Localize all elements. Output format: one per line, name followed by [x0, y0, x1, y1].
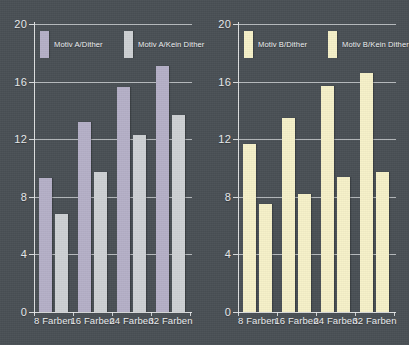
x-tick-label: 24 Farben — [109, 315, 153, 326]
x-tick-label: 32 Farben — [352, 315, 396, 326]
x-tick-label: 32 Farben — [148, 315, 192, 326]
legend-right: Motiv B/DitherMotiv B/Kein Dither — [244, 30, 404, 58]
bar — [39, 178, 52, 312]
y-tick-label: 8 — [21, 191, 27, 203]
legend-item: Motiv B/Kein Dither — [328, 30, 409, 58]
bar — [298, 194, 311, 312]
bar — [117, 87, 130, 312]
x-axis-labels-left: 8 Farben16 Farben24 Farben32 Farben — [34, 315, 192, 335]
bar — [259, 204, 272, 312]
y-tick-label: 0 — [225, 306, 231, 318]
bar — [376, 172, 389, 312]
y-tick-label: 20 — [218, 18, 231, 30]
legend-swatch — [328, 31, 337, 58]
chart-panel-left: 048121620 8 Farben16 Farben24 Farben32 F… — [0, 0, 204, 345]
x-tick-label: 16 Farben — [70, 315, 114, 326]
x-axis-line-left — [34, 312, 192, 313]
bar — [172, 115, 185, 312]
bar — [55, 214, 68, 312]
x-tick-label: 24 Farben — [313, 315, 357, 326]
y-tick-label: 20 — [14, 18, 27, 30]
plot-area-left: 048121620 — [34, 24, 190, 312]
bar — [243, 144, 256, 312]
chart-panel-right: 048121620 8 Farben16 Farben24 Farben32 F… — [204, 0, 408, 345]
bar — [321, 86, 334, 312]
bar-group-right — [238, 24, 394, 312]
bar — [156, 66, 169, 312]
legend-label: Motiv A/Dither — [54, 40, 103, 49]
legend-item: Motiv B/Dither — [244, 30, 307, 58]
y-tick-label: 4 — [21, 248, 27, 260]
bar — [94, 172, 107, 312]
bar — [282, 118, 295, 312]
bar-group-left — [34, 24, 190, 312]
y-tick-label: 8 — [225, 191, 231, 203]
x-tick-mark — [394, 312, 395, 316]
legend-swatch — [40, 31, 49, 58]
y-tick-label: 12 — [14, 133, 27, 145]
bar — [360, 73, 373, 312]
legend-label: Motiv B/Kein Dither — [342, 40, 409, 49]
legend-swatch — [244, 31, 253, 58]
y-tick-label: 0 — [21, 306, 27, 318]
legend-item: Motiv A/Dither — [40, 30, 103, 58]
legend-label: Motiv A/Kein Dither — [138, 40, 204, 49]
legend-item: Motiv A/Kein Dither — [124, 30, 204, 58]
legend-label: Motiv B/Dither — [258, 40, 307, 49]
y-tick-label: 12 — [218, 133, 231, 145]
y-tick-label: 4 — [225, 248, 231, 260]
x-axis-line-right — [238, 312, 396, 313]
x-tick-mark — [190, 312, 191, 316]
x-tick-label: 8 Farben — [238, 315, 277, 326]
y-tick-label: 16 — [218, 76, 231, 88]
legend-left: Motiv A/DitherMotiv A/Kein Dither — [40, 30, 200, 58]
x-tick-label: 16 Farben — [274, 315, 318, 326]
legend-swatch — [124, 31, 133, 58]
plot-area-right: 048121620 — [238, 24, 394, 312]
bar — [337, 177, 350, 312]
bar — [78, 122, 91, 312]
x-axis-labels-right: 8 Farben16 Farben24 Farben32 Farben — [238, 315, 396, 335]
bar — [133, 135, 146, 312]
x-tick-label: 8 Farben — [34, 315, 73, 326]
y-tick-label: 16 — [14, 76, 27, 88]
